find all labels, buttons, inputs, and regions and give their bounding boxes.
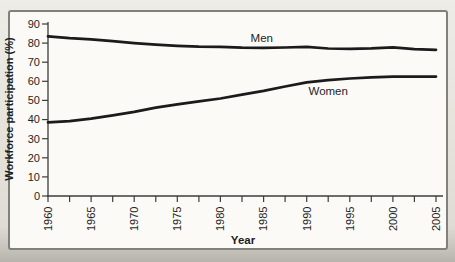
- y-tick-label: 50: [28, 94, 40, 106]
- women-line: [48, 77, 436, 123]
- y-tick-label: 70: [28, 56, 40, 68]
- y-tick-label: 20: [28, 152, 40, 164]
- series-label-women: Women: [308, 85, 347, 97]
- y-tick-label: 60: [28, 75, 40, 87]
- x-tick-label: 1980: [214, 207, 226, 231]
- x-tick-label: 1995: [344, 207, 356, 231]
- x-tick-label: 1975: [171, 207, 183, 231]
- y-tick-label: 10: [28, 171, 40, 183]
- y-tick-label: 30: [28, 133, 40, 145]
- x-axis-title: Year: [231, 234, 256, 246]
- x-tick-label: 1990: [301, 207, 313, 231]
- x-tick-label: 1985: [257, 207, 269, 231]
- x-tick-label: 1970: [128, 207, 140, 231]
- x-tick-label: 2000: [387, 207, 399, 231]
- workforce-participation-chart: 9080706050403020100196019651970197519801…: [0, 0, 455, 262]
- x-tick-label: 2005: [430, 207, 442, 231]
- men-line: [48, 36, 436, 49]
- y-tick-label: 80: [28, 37, 40, 49]
- y-tick-label: 0: [34, 190, 40, 202]
- y-tick-label: 90: [28, 18, 40, 30]
- series-label-men: Men: [251, 32, 273, 44]
- y-tick-label: 40: [28, 113, 40, 125]
- x-tick-label: 1965: [85, 207, 97, 231]
- figure-canvas: 9080706050403020100196019651970197519801…: [0, 0, 455, 262]
- x-tick-label: 1960: [42, 207, 54, 231]
- y-axis-title: Workforce participation (%): [3, 37, 15, 181]
